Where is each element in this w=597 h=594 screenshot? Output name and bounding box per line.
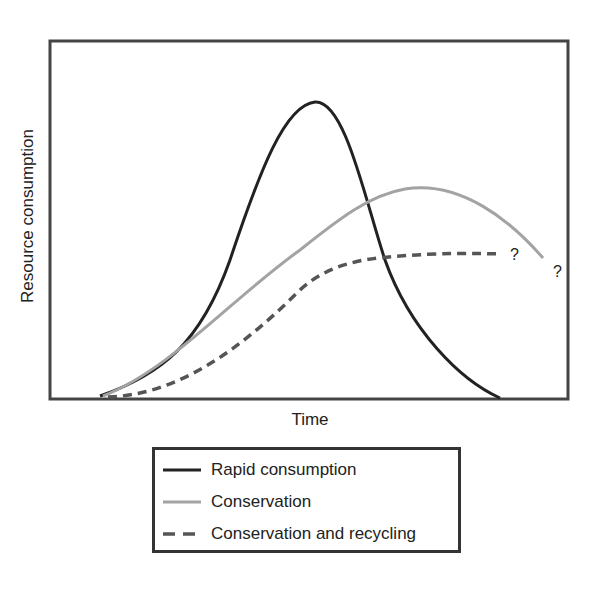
annotation-question-recycling: ? <box>510 246 519 264</box>
legend-swatch-solid-gray-icon <box>163 499 201 505</box>
legend: Rapid consumption Conservation Conservat… <box>152 447 461 553</box>
legend-item-conservation-recycling: Conservation and recycling <box>155 519 416 549</box>
legend-label: Conservation <box>211 492 311 512</box>
annotation-question-conservation: ? <box>553 263 562 281</box>
legend-label: Conservation and recycling <box>211 524 416 544</box>
legend-swatch-dashed-icon <box>163 531 201 537</box>
legend-item-rapid-consumption: Rapid consumption <box>155 455 357 485</box>
plot-frame <box>50 41 568 399</box>
x-axis-label: Time <box>260 410 360 430</box>
chart-plot-area <box>0 0 597 410</box>
legend-item-conservation: Conservation <box>155 487 311 517</box>
legend-label: Rapid consumption <box>211 460 357 480</box>
legend-swatch-solid-dark-icon <box>163 467 201 473</box>
y-axis-label: Resource consumption <box>18 126 38 306</box>
